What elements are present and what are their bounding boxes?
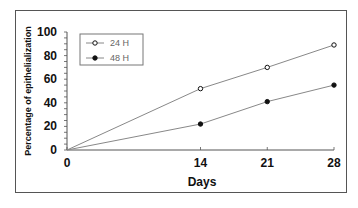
y-tick-label: 60: [44, 72, 58, 86]
y-tick-label: 40: [44, 96, 58, 110]
x-tick-label: 28: [327, 156, 341, 170]
data-point: [265, 65, 269, 69]
y-tick-label: 20: [44, 119, 58, 133]
legend-label: 48 H: [110, 53, 129, 63]
filled-circle-marker-icon: [93, 56, 97, 60]
line-chart: 020406080100 0142128 Percentage of epith…: [0, 0, 358, 208]
x-axis-title: Days: [188, 175, 217, 189]
y-tick-label: 0: [50, 143, 57, 157]
legend-label: 24 H: [110, 38, 129, 48]
legend: 24 H48 H: [80, 34, 143, 65]
x-tick-label: 14: [194, 156, 208, 170]
open-circle-marker-icon: [93, 41, 97, 45]
data-point: [198, 122, 202, 126]
x-tick-label: 0: [64, 156, 71, 170]
y-tick-label: 80: [44, 49, 58, 63]
y-axis: 020406080100: [37, 25, 67, 157]
x-axis: 0142128: [64, 147, 341, 170]
x-tick-label: 21: [261, 156, 275, 170]
series-48h: [67, 83, 336, 150]
y-axis-title: Percentage of epithelialization: [23, 26, 33, 156]
y-tick-label: 100: [37, 25, 57, 39]
data-point: [332, 83, 336, 87]
data-point: [265, 99, 269, 103]
data-point: [332, 43, 336, 47]
data-point: [198, 86, 202, 90]
